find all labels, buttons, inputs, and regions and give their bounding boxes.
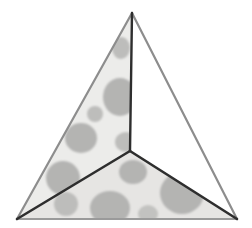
texture-spot bbox=[87, 106, 103, 122]
figure-canvas bbox=[0, 0, 252, 228]
tetrahedron-diagram bbox=[0, 0, 252, 228]
texture-spot bbox=[65, 123, 97, 153]
texture-spot bbox=[119, 160, 147, 184]
